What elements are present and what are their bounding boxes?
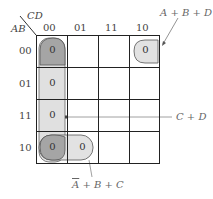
row-label-00: 00 <box>19 45 32 56</box>
annotation-a-b-d: A + B + D <box>160 7 212 18</box>
grid-line <box>37 131 159 132</box>
col-label-11: 11 <box>105 22 118 33</box>
grid-line <box>37 67 159 68</box>
col-label-01: 01 <box>74 22 87 33</box>
row-label-01: 01 <box>19 78 32 89</box>
cell-00-10: 0 <box>130 44 161 55</box>
row-label-11: 11 <box>19 110 32 121</box>
row-label-10: 10 <box>19 142 32 153</box>
cell-11-00: 0 <box>37 109 68 120</box>
cell-10-00: 0 <box>37 141 68 152</box>
grid-line <box>37 99 159 100</box>
row-var-label: AB <box>11 23 26 34</box>
col-label-00: 00 <box>43 22 56 33</box>
leader-a-b-d <box>163 18 178 44</box>
annotation-rest: + B + C <box>79 179 123 190</box>
cell-10-01: 0 <box>67 141 98 152</box>
annotation-abar-b-c: A + B + C <box>72 179 124 190</box>
col-var-label: CD <box>27 10 43 21</box>
annotation-c-d: C + D <box>176 111 206 122</box>
col-label-10: 10 <box>136 22 149 33</box>
cell-01-00: 0 <box>37 77 68 88</box>
cell-00-00: 0 <box>37 44 68 55</box>
